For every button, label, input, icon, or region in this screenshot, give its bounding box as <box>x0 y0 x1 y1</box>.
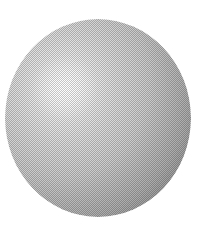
sphere-rim-shadow <box>5 19 191 217</box>
figure-canvas <box>0 0 209 236</box>
sphere-illustration <box>0 0 209 236</box>
specular-highlight <box>31 56 99 120</box>
